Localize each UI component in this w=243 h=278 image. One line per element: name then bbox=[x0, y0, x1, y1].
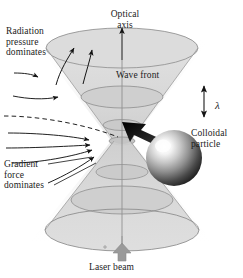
label-colloidal-particle: Colloidal particle bbox=[191, 128, 227, 149]
force-arrow bbox=[14, 73, 38, 77]
force-arrow bbox=[8, 133, 89, 140]
label-gradient-force: Gradient force dominates bbox=[4, 159, 44, 191]
label-laser-beam: Laser beam bbox=[89, 262, 134, 273]
label-radiation-pressure: Radiation pressure dominates bbox=[6, 26, 46, 58]
optical-trapping-figure: Radiation pressure dominates Optical axi… bbox=[0, 0, 243, 278]
force-arrow bbox=[13, 96, 58, 99]
label-wave-front: Wave front bbox=[116, 70, 159, 81]
label-optical-axis: Optical axis bbox=[99, 9, 151, 30]
label-wavelength-lambda: λ bbox=[215, 100, 220, 111]
force-arrow bbox=[6, 145, 90, 148]
